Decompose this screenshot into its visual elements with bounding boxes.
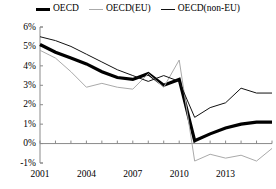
- x-tick-label: 2001: [31, 169, 50, 179]
- data-series-group: [40, 37, 272, 161]
- legend-swatch-oecd-eu: [89, 9, 103, 10]
- legend-item-oecd-non-eu: OECD(non-EU): [161, 4, 240, 14]
- legend-label-oecd: OECD: [53, 4, 79, 14]
- y-tick-label: 3%: [23, 80, 36, 90]
- series-line-oecd: [40, 44, 272, 140]
- x-tick-label: 2010: [170, 169, 189, 179]
- line-chart: OECD OECD(EU) OECD(non-EU) 6%5%4%3%2%1%0…: [0, 0, 276, 189]
- y-tick-label: -1%: [20, 158, 36, 168]
- x-tick-label: 2007: [123, 169, 142, 179]
- x-axis: [40, 141, 272, 144]
- legend-label-oecd-non-eu: OECD(non-EU): [178, 4, 240, 14]
- y-tick-label: 2%: [23, 99, 36, 109]
- y-axis: 6%5%4%3%2%1%0%-1%: [20, 22, 43, 168]
- legend-item-oecd-eu: OECD(EU): [89, 4, 151, 14]
- series-line-oecdeu: [40, 50, 272, 161]
- legend-item-oecd: OECD: [36, 4, 79, 14]
- x-tick-label: 2004: [77, 169, 96, 179]
- y-tick-label: 6%: [23, 22, 36, 32]
- legend-label-oecd-eu: OECD(EU): [106, 4, 151, 14]
- y-tick-label: 4%: [23, 61, 36, 71]
- x-axis-tick-labels: 20012004200720102013: [31, 169, 236, 179]
- y-tick-label: 5%: [23, 41, 36, 51]
- x-tick-label: 2013: [216, 169, 235, 179]
- y-tick-label: 0%: [23, 138, 36, 148]
- legend-swatch-oecd-non-eu: [161, 9, 175, 10]
- legend-swatch-oecd: [36, 8, 50, 11]
- series-line-oecdnon-eu: [40, 37, 272, 118]
- plot-area: 6%5%4%3%2%1%0%-1% 20012004200720102013: [0, 16, 276, 189]
- y-tick-label: 1%: [23, 119, 36, 129]
- plot-svg: 6%5%4%3%2%1%0%-1% 20012004200720102013: [0, 16, 276, 189]
